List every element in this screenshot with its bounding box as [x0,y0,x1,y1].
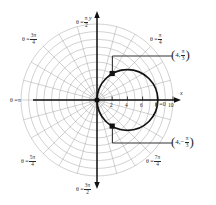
theta-value: 0 [163,101,166,107]
theta-value: π [18,97,21,103]
theta-eq-text: θ = [146,158,154,164]
fraction-5pi-4: 5π4 [29,155,36,167]
fraction-pi-2: π2 [84,16,88,28]
x-axis-arrowhead [174,97,181,102]
angle-label-theta-3pi-4: θ =3π4 [22,33,37,45]
y-axis-label: y [89,15,92,21]
fraction-pi-4: π4 [158,33,162,45]
pole-origin-dot [94,97,99,102]
annotation-point-upper: (4,π3) [171,49,190,61]
marked-point-upper [110,71,115,76]
fraction-3pi-2: 3π2 [84,183,91,195]
angle-label-theta-3pi-2: θ =3π2 [76,183,91,195]
close-paren: ) [185,47,189,62]
angle-label-theta-pi: θ =π [10,97,21,103]
close-paren: ) [189,134,193,149]
marked-point-lower [110,124,115,129]
x-axis-label: x [180,90,183,96]
angle-label-theta-pi-4: θ =π4 [150,33,163,45]
theta-eq-text: θ = [76,19,84,25]
angle-label-theta-5pi-4: θ =5π4 [21,155,36,167]
theta-eq-text: θ = [21,158,29,164]
x-tick-label-10: 10 [168,102,174,108]
x-tick-label-2: 2 [110,102,113,108]
x-tick-label-6: 6 [140,102,143,108]
theta-eq-text: θ = [155,101,163,107]
angle-label-theta-7pi-4: θ =7π4 [146,155,161,167]
theta-eq-text: θ = [10,97,18,103]
angle-label-theta-0: θ =0 [155,101,166,107]
fraction-3pi-4: 3π4 [30,33,37,45]
minus-sign: − [181,138,185,146]
theta-eq-text: θ = [76,186,84,192]
y-axis-arrowhead [94,11,99,18]
fraction-7pi-4: 7π4 [154,155,161,167]
angle-label-theta-pi-2: θ =π2 [76,16,89,28]
y-axis-arrowhead-down [94,182,99,189]
theta-eq-text: θ = [150,36,158,42]
theta-eq-text: θ = [22,36,30,42]
x-tick-label-4: 4 [125,102,128,108]
polar-graph-figure: y x 2 4 6 8 10 θ =0 θ =π4 θ =π2 θ =3π4 θ… [0,0,216,205]
polar-plot-canvas [0,0,216,205]
annotation-point-lower: (4,−π3) [171,136,194,148]
